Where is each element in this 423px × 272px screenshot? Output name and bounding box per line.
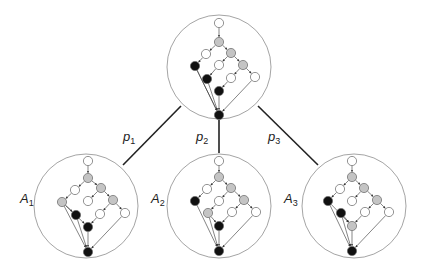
edge [236, 203, 241, 208]
node-black [214, 110, 223, 119]
edge [356, 215, 386, 247]
node-gray [359, 183, 368, 192]
edge [116, 203, 121, 209]
node-white [214, 18, 223, 27]
node-gray [347, 221, 356, 230]
node-white [335, 184, 344, 193]
edge [380, 203, 385, 208]
node-white [95, 209, 104, 218]
node-black [202, 74, 211, 83]
edge [223, 215, 253, 247]
label-p3: p3 [268, 130, 280, 146]
node-gray [372, 195, 381, 204]
graph-A3 [302, 154, 406, 258]
node-black [214, 86, 223, 95]
enclosing-circle [34, 154, 138, 258]
node-gray [214, 37, 223, 46]
label-p2: p2 [196, 130, 208, 146]
edge [222, 81, 227, 87]
label-p1: p1 [123, 130, 135, 146]
edge [92, 191, 98, 197]
node-white [360, 207, 369, 216]
node-white [347, 156, 356, 165]
edge [222, 45, 227, 49]
enclosing-circle [302, 154, 406, 258]
node-white [214, 156, 223, 165]
edge [369, 203, 374, 208]
node-black [214, 246, 223, 255]
edge [234, 68, 239, 74]
node-white [226, 73, 235, 82]
edge [332, 192, 337, 197]
node-white [202, 184, 211, 193]
edge [234, 56, 239, 61]
edge [355, 215, 361, 222]
edge [367, 191, 373, 196]
edge [246, 68, 251, 73]
node-gray [239, 195, 248, 204]
edge [198, 57, 202, 62]
node-black [347, 246, 356, 255]
edge [92, 216, 122, 248]
node-gray [226, 48, 235, 57]
edge [234, 191, 240, 196]
node-white [214, 60, 223, 69]
graph-groups [34, 15, 406, 258]
node-black [190, 196, 199, 205]
edge [355, 180, 360, 184]
node-black [83, 222, 92, 231]
graph-A2 [167, 154, 271, 258]
node-black [336, 208, 345, 217]
edge [223, 80, 252, 111]
node-gray [226, 183, 235, 192]
node-gray [347, 172, 356, 181]
edge [344, 180, 349, 185]
edge [222, 215, 228, 222]
node-gray [214, 172, 223, 181]
edge [66, 193, 72, 198]
node-gray [83, 173, 92, 182]
graph-A1 [34, 154, 138, 258]
node-white [120, 208, 129, 217]
node-black [323, 196, 332, 205]
edge [79, 181, 85, 186]
edge [91, 217, 96, 223]
graph-root [167, 15, 271, 120]
node-black [190, 61, 199, 70]
node-white [251, 207, 260, 216]
node-white [70, 185, 79, 194]
edge [344, 217, 349, 223]
node-white [214, 196, 223, 205]
edge [211, 204, 215, 209]
connector-p3 [258, 106, 318, 165]
node-white [83, 196, 92, 205]
edge [210, 68, 216, 75]
label-A2: A2 [151, 192, 165, 208]
edge [223, 56, 228, 61]
edge [92, 181, 97, 185]
node-white [83, 156, 92, 165]
node-white [227, 207, 236, 216]
node-black [214, 221, 223, 230]
node-gray [238, 60, 247, 69]
label-A1: A1 [20, 192, 34, 208]
edge [222, 191, 227, 197]
edge [211, 217, 216, 223]
edge [209, 217, 217, 246]
edge [342, 217, 350, 246]
edge [247, 203, 252, 208]
node-gray [57, 197, 66, 206]
edge [211, 180, 216, 185]
diagram-canvas [0, 0, 423, 272]
node-white [347, 196, 356, 205]
edge [199, 192, 204, 197]
node-gray [108, 195, 117, 204]
node-white [201, 49, 210, 58]
edge [210, 45, 216, 50]
node-black [83, 247, 92, 256]
label-A3: A3 [284, 192, 298, 208]
node-black [71, 210, 80, 219]
node-white [250, 72, 259, 81]
edge [104, 191, 109, 196]
node-gray [203, 208, 212, 217]
